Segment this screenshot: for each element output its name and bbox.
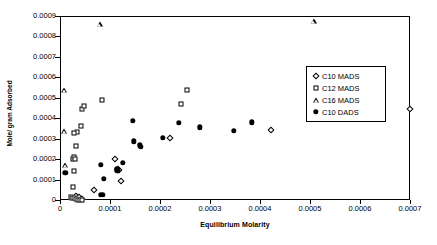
data-point	[71, 168, 76, 173]
data-point	[231, 128, 236, 133]
data-point	[311, 19, 317, 24]
data-point	[130, 118, 135, 123]
y-axis-tick-label: 0	[0, 196, 56, 204]
data-point	[179, 101, 184, 106]
data-point	[61, 88, 67, 93]
data-point	[184, 87, 189, 92]
x-axis-tick-label: 0.0007	[380, 205, 437, 213]
data-point	[61, 129, 67, 134]
data-point	[138, 144, 143, 149]
diamond-marker-icon	[312, 72, 319, 79]
legend-item-label: C16 MADS	[322, 96, 360, 105]
data-point	[97, 21, 103, 26]
data-point	[71, 130, 76, 135]
y-axis-tick-label: 0.0008	[0, 32, 56, 40]
legend-marker	[311, 107, 321, 117]
legend-item-label: C10 MADS	[322, 72, 360, 81]
x-axis-title: Equilibrium Molarity	[60, 221, 410, 228]
data-point	[166, 134, 173, 141]
data-point	[176, 120, 181, 125]
data-point	[81, 103, 86, 108]
x-axis-tick-labels: 00.00010.00020.00030.00040.00050.00060.0…	[0, 205, 437, 219]
legend-marker	[311, 95, 321, 105]
legend-marker	[311, 83, 321, 93]
y-axis-tick-label: 0.0001	[0, 176, 56, 184]
legend-item-c12-mads[interactable]: C12 MADS	[311, 82, 381, 94]
data-point	[62, 163, 68, 168]
data-point	[100, 192, 105, 197]
y-axis-title: Mole/ gram Adsorbed	[6, 54, 13, 174]
data-point	[249, 120, 254, 125]
data-point	[70, 184, 75, 189]
data-point	[63, 170, 68, 175]
y-axis-tick-label: 0.0009	[0, 12, 56, 20]
data-point	[90, 187, 97, 194]
legend-item-label: C10 DADS	[322, 108, 359, 117]
legend-item-c10-dads[interactable]: C10 DADS	[311, 106, 381, 118]
scatter-chart: 00.00010.00020.00030.00040.00050.00060.0…	[0, 0, 437, 245]
data-point	[120, 160, 125, 165]
triangle-marker-icon	[313, 98, 319, 103]
legend-item-c10-mads[interactable]: C10 MADS	[311, 70, 381, 82]
data-point	[98, 162, 103, 167]
data-point	[111, 156, 118, 163]
circle-marker-icon	[313, 109, 318, 114]
legend-item-c16-mads[interactable]: C16 MADS	[311, 94, 381, 106]
data-point	[73, 157, 78, 162]
data-point	[79, 124, 84, 129]
data-point	[99, 97, 104, 102]
data-point	[406, 105, 413, 112]
data-point	[131, 139, 136, 144]
data-point	[267, 126, 274, 133]
data-point	[197, 125, 202, 130]
legend-marker	[311, 71, 321, 81]
data-point	[160, 135, 165, 140]
data-point	[117, 177, 124, 184]
legend-item-label: C12 MADS	[322, 84, 360, 93]
legend: C10 MADSC12 MADSC16 MADSC10 DADS	[306, 66, 386, 122]
data-point	[80, 198, 85, 203]
data-point	[74, 144, 79, 149]
square-marker-icon	[314, 86, 319, 91]
data-point	[101, 176, 106, 181]
